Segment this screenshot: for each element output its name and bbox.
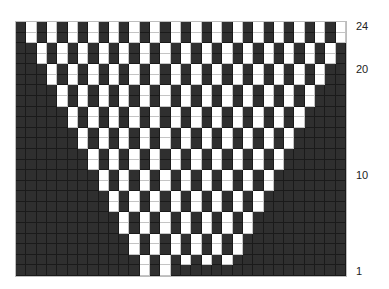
chart-cell (109, 212, 119, 223)
chart-cell (47, 202, 57, 213)
chart-cell (16, 128, 26, 139)
chart-cell (253, 107, 263, 118)
chart-cell (99, 255, 109, 266)
chart-cell (68, 191, 78, 202)
chart-cell (264, 202, 274, 213)
chart-cell (171, 255, 181, 266)
chart-cell (171, 54, 181, 65)
chart-cell (315, 202, 325, 213)
chart-cell (171, 244, 181, 255)
chart-cell (336, 202, 346, 213)
chart-cell (99, 43, 109, 54)
chart-cell (99, 223, 109, 234)
chart-cell (26, 138, 36, 149)
chart-cell (119, 181, 129, 192)
chart-cell (315, 117, 325, 128)
chart-cell (202, 265, 212, 276)
chart-cell (47, 191, 57, 202)
chart-cell (325, 75, 335, 86)
chart-cell (253, 85, 263, 96)
chart-cell (212, 160, 222, 171)
chart-cell (233, 160, 243, 171)
chart-cell (109, 96, 119, 107)
chart-cell (119, 75, 129, 86)
chart-cell (243, 128, 253, 139)
chart-cell (78, 234, 88, 245)
chart-cell (325, 33, 335, 44)
row-label-20: 20 (356, 64, 368, 75)
chart-cell (336, 107, 346, 118)
chart-cell (202, 149, 212, 160)
chart-cell (99, 54, 109, 65)
chart-cell (253, 117, 263, 128)
chart-cell (171, 234, 181, 245)
chart-cell (88, 138, 98, 149)
chart-cell (47, 75, 57, 86)
chart-cell (88, 75, 98, 86)
chart-cell (264, 107, 274, 118)
chart-cell (171, 223, 181, 234)
chart-cell (202, 96, 212, 107)
chart-cell (233, 265, 243, 276)
chart-cell (171, 43, 181, 54)
chart-cell (99, 170, 109, 181)
chart-cell (243, 149, 253, 160)
row-label-24: 24 (356, 21, 368, 32)
chart-cell (181, 107, 191, 118)
chart-cell (181, 22, 191, 33)
chart-cell (150, 191, 160, 202)
chart-cell (68, 107, 78, 118)
chart-cell (202, 107, 212, 118)
chart-cell (264, 212, 274, 223)
row-label-1: 1 (356, 266, 362, 277)
chart-cell (150, 54, 160, 65)
chart-cell (191, 128, 201, 139)
chart-cell (336, 191, 346, 202)
chart-cell (336, 75, 346, 86)
chart-cell (315, 33, 325, 44)
chart-cell (88, 22, 98, 33)
chart-cell (16, 64, 26, 75)
chart-cell (37, 96, 47, 107)
chart-cell (88, 265, 98, 276)
chart-cell (305, 149, 315, 160)
chart-cell (119, 117, 129, 128)
chart-cell (119, 234, 129, 245)
chart-cell (233, 234, 243, 245)
chart-cell (57, 85, 67, 96)
chart-cell (150, 265, 160, 276)
chart-cell (129, 117, 139, 128)
chart-cell (222, 149, 232, 160)
chart-cell (202, 22, 212, 33)
chart-cell (140, 265, 150, 276)
chart-cell (336, 255, 346, 266)
chart-cell (119, 128, 129, 139)
chart-cell (336, 33, 346, 44)
chart-cell (140, 202, 150, 213)
chart-cell (140, 149, 150, 160)
chart-cell (88, 117, 98, 128)
chart-cell (233, 138, 243, 149)
chart-cell (109, 43, 119, 54)
chart-cell (181, 234, 191, 245)
chart-cell (171, 160, 181, 171)
chart-cell (294, 128, 304, 139)
chart-cell (284, 107, 294, 118)
chart-cell (202, 170, 212, 181)
chart-cell (109, 149, 119, 160)
chart-cell (274, 244, 284, 255)
chart-cell (140, 117, 150, 128)
chart-cell (78, 43, 88, 54)
chart-cell (264, 181, 274, 192)
chart-cell (99, 138, 109, 149)
chart-cell (336, 212, 346, 223)
chart-cell (233, 128, 243, 139)
chart-cell (78, 85, 88, 96)
chart-cell (78, 75, 88, 86)
chart-cell (16, 149, 26, 160)
chart-cell (47, 54, 57, 65)
chart-cell (253, 128, 263, 139)
chart-cell (274, 22, 284, 33)
chart-cell (26, 212, 36, 223)
chart-cell (315, 265, 325, 276)
